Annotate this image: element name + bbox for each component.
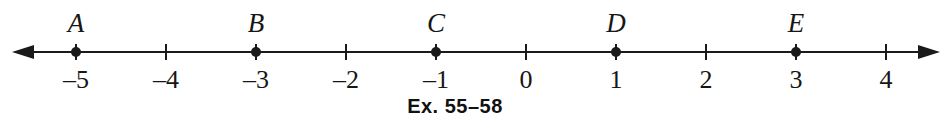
tick-label: –4: [153, 67, 179, 93]
left-arrowhead-icon: [12, 45, 34, 59]
figure-caption: Ex. 55–58: [407, 96, 503, 116]
tick-label: 4: [880, 67, 893, 93]
tick-label: 2: [700, 67, 713, 93]
tick-label: –2: [333, 67, 359, 93]
tick-label: –1: [423, 67, 449, 93]
tick-label: 3: [790, 67, 803, 93]
point-letter-label: C: [427, 10, 445, 37]
tick-label: 0: [520, 67, 533, 93]
point-marker: [611, 47, 621, 57]
point-letter-label: B: [248, 10, 265, 37]
right-arrowhead-icon: [918, 45, 940, 59]
point-letter-label: A: [68, 10, 85, 37]
point-letter-label: E: [788, 10, 805, 37]
point-marker: [431, 47, 441, 57]
number-line-figure: ABCDE –5–4–3–2–101234 Ex. 55–58: [0, 0, 949, 136]
tick-label: –5: [63, 67, 89, 93]
tick-label: 1: [610, 67, 623, 93]
point-letter-label: D: [606, 10, 626, 37]
point-marker: [251, 47, 261, 57]
point-marker: [791, 47, 801, 57]
tick-label: –3: [243, 67, 269, 93]
point-marker: [71, 47, 81, 57]
